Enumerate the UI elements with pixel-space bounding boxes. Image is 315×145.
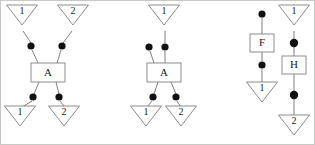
triangle-node: 1 (149, 5, 180, 25)
triangle-label: 1 (18, 106, 23, 117)
triangle-label: 1 (20, 5, 25, 16)
junction-dot (161, 43, 168, 50)
triangle-node: 1 (279, 5, 310, 25)
box-label: H (290, 58, 298, 70)
triangle-node: 2 (279, 115, 310, 135)
triangle-label: 2 (292, 115, 297, 126)
box-node: H (282, 56, 306, 74)
triangle-label: 2 (71, 5, 76, 16)
junction-dot (258, 61, 265, 68)
triangle-label: 1 (292, 5, 297, 16)
diagram-figure: 1212A112A112FH (0, 0, 315, 145)
junction-dot (145, 43, 152, 50)
junction-dot (149, 93, 156, 100)
box-label: F (259, 36, 265, 48)
triangle-node: 2 (58, 5, 89, 25)
triangle-label: 2 (62, 106, 67, 117)
triangle-node: 2 (49, 106, 80, 126)
diagram-canvas: 1212A112A112FH (1, 1, 315, 145)
edge-line (56, 82, 59, 94)
junction-dot (290, 91, 298, 99)
box-node: A (31, 63, 65, 82)
junction-dot (29, 93, 36, 100)
junction-dot (27, 42, 34, 49)
edge-line (32, 50, 38, 63)
shape-layer: 1212A112A112FH (5, 5, 310, 135)
box-label: A (160, 66, 168, 78)
triangle-label: 1 (144, 106, 149, 117)
edge-line (154, 82, 158, 94)
junction-dot (55, 93, 62, 100)
triangle-node: 1 (247, 82, 278, 102)
edge-line (63, 31, 72, 43)
triangle-node: 1 (131, 106, 162, 126)
triangle-node: 1 (5, 106, 36, 126)
triangle-node: 2 (166, 106, 197, 126)
edge-line (57, 50, 61, 63)
box-node: A (147, 63, 181, 82)
triangle-label: 1 (162, 5, 167, 16)
junction-dot (290, 39, 298, 47)
edge-line (34, 82, 39, 94)
triangle-label: 2 (179, 106, 184, 117)
junction-dot (58, 42, 65, 49)
edge-line (150, 51, 154, 63)
box-label: A (44, 66, 52, 78)
triangle-node: 1 (7, 5, 38, 25)
triangle-label: 1 (260, 82, 265, 93)
edge-line (171, 82, 176, 94)
junction-dot (258, 10, 265, 17)
edge-line (23, 31, 31, 43)
junction-dot (172, 93, 179, 100)
box-node: F (250, 34, 274, 52)
